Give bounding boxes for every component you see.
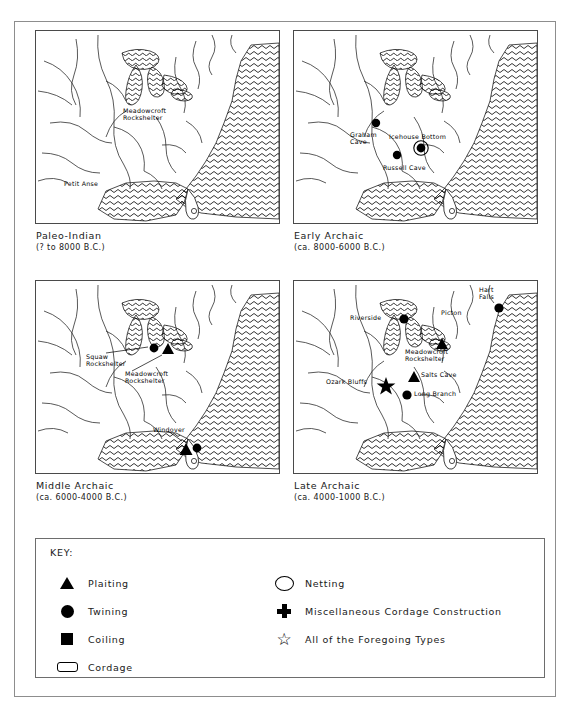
legend-item-coiling: Coiling bbox=[54, 625, 133, 653]
legend-item-miscellaneous-cordage-construction: Miscellaneous Cordage Construction bbox=[271, 597, 502, 625]
site-label-picton: Picton bbox=[441, 309, 462, 316]
rounded-rectangle-icon bbox=[54, 657, 80, 677]
map-box bbox=[293, 30, 538, 224]
map-drawing-paleo-indian bbox=[36, 31, 279, 223]
cross-icon bbox=[271, 601, 297, 621]
legend-label: Cordage bbox=[88, 662, 133, 673]
panel-title: Late Archaic bbox=[294, 479, 538, 492]
panel-date: (ca. 4000-1000 B.C.) bbox=[294, 492, 538, 504]
site-label-icehouse-bottom: Icehouse Bottom bbox=[389, 133, 446, 140]
site-label-graham-cave: Graham Cave bbox=[350, 131, 377, 146]
map-panel-grid: Meadowcroft Rockshelter Petit Anse Paleo… bbox=[15, 22, 557, 522]
square-icon bbox=[54, 629, 80, 649]
panel-title: Early Archaic bbox=[294, 229, 538, 242]
legend-label: Miscellaneous Cordage Construction bbox=[305, 606, 502, 617]
panel-caption: Paleo-Indian (? to 8000 B.C.) bbox=[36, 229, 280, 254]
legend-label: Twining bbox=[88, 606, 128, 617]
legend-item-plaiting: Plaiting bbox=[54, 569, 133, 597]
legend-label: Coiling bbox=[88, 634, 125, 645]
panel-date: (ca. 8000-6000 B.C.) bbox=[294, 242, 538, 254]
site-label-riverside: Riverside bbox=[350, 314, 381, 321]
legend-key-box: KEY: Plaiting Twining Coiling Cordage bbox=[35, 538, 545, 678]
map-box bbox=[293, 280, 538, 474]
site-label-windover: Windover bbox=[153, 426, 185, 433]
site-label-meadowcroft-rockshelter: Meadowcroft Rockshelter bbox=[123, 107, 166, 122]
legend-item-all-of-the-foregoing-types: ☆ All of the Foregoing Types bbox=[271, 625, 502, 653]
map-drawing-early-archaic bbox=[294, 31, 537, 223]
star-icon: ☆ bbox=[271, 629, 297, 649]
map-panel-middle-archaic: Squaw Rockshelter Meadowcroft Rockshelte… bbox=[35, 280, 280, 520]
circle-icon bbox=[54, 601, 80, 621]
legend-title: KEY: bbox=[50, 547, 73, 558]
legend-label: Netting bbox=[305, 578, 345, 589]
map-drawing-late-archaic bbox=[294, 281, 537, 473]
map-panel-paleo-indian: Meadowcroft Rockshelter Petit Anse Paleo… bbox=[35, 30, 280, 270]
figure-frame: Meadowcroft Rockshelter Petit Anse Paleo… bbox=[14, 21, 556, 697]
panel-caption: Late Archaic (ca. 4000-1000 B.C.) bbox=[294, 479, 538, 504]
star-glyph: ☆ bbox=[276, 631, 291, 648]
panel-date: (ca. 6000-4000 B.C.) bbox=[36, 492, 280, 504]
legend-item-twining: Twining bbox=[54, 597, 133, 625]
panel-caption: Middle Archaic (ca. 6000-4000 B.C.) bbox=[36, 479, 280, 504]
panel-title: Paleo-Indian bbox=[36, 229, 280, 242]
map-panel-early-archaic: Graham Cave Icehouse Bottom Russell Cave… bbox=[293, 30, 538, 270]
site-label-squaw-rockshelter: Squaw Rockshelter bbox=[86, 353, 126, 368]
site-label-meadowcroft-rockshelter: Meadowcroft Rockshelter bbox=[125, 370, 168, 385]
legend-label: All of the Foregoing Types bbox=[305, 634, 446, 645]
site-label-russell-cave: Russell Cave bbox=[383, 164, 426, 171]
site-label-meadowcroft-rockshelter: Meadowcroft Rockshelter bbox=[405, 348, 448, 363]
legend-column-left: Plaiting Twining Coiling Cordage bbox=[54, 569, 133, 681]
open-ellipse-icon bbox=[271, 573, 297, 593]
panel-date: (? to 8000 B.C.) bbox=[36, 242, 280, 254]
legend-item-cordage: Cordage bbox=[54, 653, 133, 681]
site-label-petit-anse: Petit Anse bbox=[64, 180, 98, 187]
legend-column-right: Netting Miscellaneous Cordage Constructi… bbox=[271, 569, 502, 653]
site-label-hart-falls: Hart Falls bbox=[479, 286, 494, 301]
site-label-salts-cave: Salts Cave bbox=[421, 371, 457, 378]
map-panel-late-archaic: Riverside Picton Hart Falls Meadowcroft … bbox=[293, 280, 538, 520]
site-label-long-branch: Long Branch bbox=[414, 390, 456, 397]
triangle-icon bbox=[54, 573, 80, 593]
legend-label: Plaiting bbox=[88, 578, 129, 589]
map-box bbox=[35, 30, 280, 224]
legend-item-netting: Netting bbox=[271, 569, 502, 597]
site-label-ozark-bluffs: Ozark Bluffs bbox=[326, 378, 367, 385]
panel-title: Middle Archaic bbox=[36, 479, 280, 492]
panel-caption: Early Archaic (ca. 8000-6000 B.C.) bbox=[294, 229, 538, 254]
